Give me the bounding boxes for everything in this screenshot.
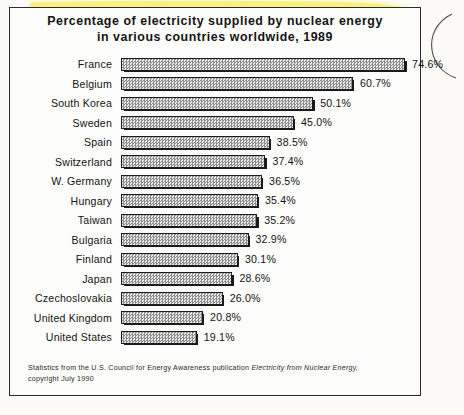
bar-row: Switzerland37.4% [9, 155, 421, 175]
bar-fill [121, 155, 265, 168]
chart-title-line-1: Percentage of electricity supplied by nu… [9, 14, 421, 30]
bar-row: Finland30.1% [9, 252, 421, 272]
bar-fill [121, 311, 203, 324]
bar-row: United Kingdom20.8% [9, 311, 421, 331]
bar-fill [121, 272, 232, 285]
bar [121, 272, 232, 285]
bar-row: Taiwan35.2% [9, 213, 421, 233]
bar-fill [121, 175, 262, 188]
bar-row: W. Germany36.5% [9, 174, 421, 194]
bar-row: Bulgaria32.9% [9, 233, 421, 253]
category-label: United Kingdom [9, 311, 112, 325]
bar-row: Japan28.6% [9, 272, 421, 292]
bar [121, 253, 238, 266]
bar [121, 292, 223, 305]
bar-value-label: 20.8% [210, 310, 241, 324]
bar [121, 155, 265, 168]
category-label: Belgium [9, 77, 112, 91]
bar-fill [121, 233, 249, 246]
bar-fill [121, 214, 257, 227]
bar-fill [121, 253, 238, 266]
source-copyright: copyright July 1990 [28, 375, 94, 383]
category-label: Taiwan [9, 213, 112, 227]
bar [121, 331, 197, 344]
bar-value-label: 26.0% [230, 291, 261, 305]
bar [121, 136, 270, 149]
bar-fill [121, 136, 270, 149]
bar-row: Hungary35.4% [9, 194, 421, 214]
chart-title: Percentage of electricity supplied by nu… [9, 14, 421, 45]
bar-row: France74.6% [9, 57, 421, 77]
bar-value-label: 36.5% [269, 174, 300, 188]
bar [121, 311, 203, 324]
category-label: W. Germany [9, 174, 112, 188]
bar-value-label: 38.5% [277, 135, 308, 149]
bar [121, 77, 353, 90]
category-label: Bulgaria [9, 233, 112, 247]
bar-row: United States19.1% [9, 330, 421, 350]
chart-title-line-2: in various countries worldwide, 1989 [9, 30, 421, 46]
bar-chart-plot-area: France74.6%Belgium60.7%South Korea50.1%S… [9, 57, 421, 353]
category-label: Switzerland [9, 155, 112, 169]
bar-value-label: 35.4% [265, 193, 296, 207]
category-label: United States [9, 330, 112, 344]
category-label: France [9, 57, 112, 71]
bar-fill [121, 331, 197, 344]
category-label: Finland [9, 252, 112, 266]
bar-value-label: 50.1% [320, 96, 351, 110]
bar-value-label: 32.9% [256, 232, 287, 246]
bar-value-label: 19.1% [204, 330, 235, 344]
bar [121, 194, 258, 207]
bar-fill [121, 58, 405, 71]
category-label: Hungary [9, 194, 112, 208]
bar-value-label: 74.6% [412, 57, 443, 71]
bar-row: South Korea50.1% [9, 96, 421, 116]
bar-value-label: 60.7% [360, 76, 391, 90]
bar [121, 116, 294, 129]
bar-fill [121, 116, 294, 129]
bar [121, 233, 249, 246]
bar-fill [121, 77, 353, 90]
bar-row: Sweden45.0% [9, 116, 421, 136]
bar [121, 214, 257, 227]
bar-fill [121, 292, 223, 305]
bar-value-label: 45.0% [301, 115, 332, 129]
category-label: Czechoslovakia [9, 291, 112, 305]
source-note: Statistics from the U.S. Council for Ene… [28, 363, 398, 384]
category-label: South Korea [9, 96, 112, 110]
category-label: Spain [9, 135, 112, 149]
bar [121, 58, 405, 71]
bar-value-label: 37.4% [272, 154, 303, 168]
source-note-text: Statistics from the U.S. Council for Ene… [28, 364, 251, 372]
bar-row: Spain38.5% [9, 135, 421, 155]
bar-value-label: 28.6% [239, 271, 270, 285]
bar-row: Czechoslovakia26.0% [9, 291, 421, 311]
bar-fill [121, 97, 313, 110]
bar-value-label: 30.1% [245, 252, 276, 266]
bar-row: Belgium60.7% [9, 77, 421, 97]
source-publication-title: Electricity from Nuclear Energy, [251, 364, 358, 372]
category-label: Japan [9, 272, 112, 286]
bar [121, 97, 313, 110]
bar-fill [121, 194, 258, 207]
category-label: Sweden [9, 116, 112, 130]
bar-value-label: 35.2% [264, 213, 295, 227]
bar [121, 175, 262, 188]
